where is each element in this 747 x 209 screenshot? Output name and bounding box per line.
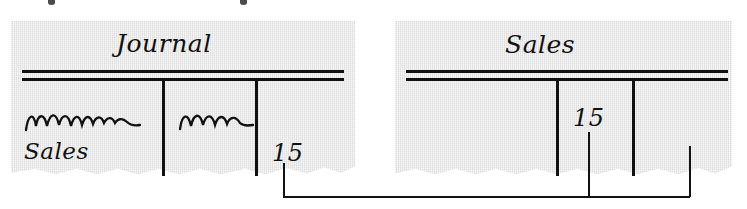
posting-trace-lead-ledger [588,132,590,197]
journal-heading: Journal [116,29,212,58]
ledger-credit-amount: 15 [573,104,605,132]
posting-trace-horizontal [283,196,690,198]
ledger-heading: Sales [505,30,575,59]
journal-squiggle-line-1 [24,108,144,134]
journal-column-rule-1 [162,81,165,176]
posting-diagram: Journal Sales 15 Sales 15 [0,0,747,209]
descender-mark [48,0,55,5]
journal-credit-amount: 15 [272,139,304,167]
descender-mark [240,0,247,5]
journal-squiggle-line-2 [178,109,256,133]
ledger-double-rule [406,70,728,81]
posting-trace-lead-journal [283,163,285,197]
journal-account-credited: Sales [24,138,89,164]
ledger-column-rule-2 [632,81,635,176]
ledger-column-rule-1 [556,81,559,176]
posting-trace-right-riser [689,146,691,197]
journal-double-rule [22,70,344,81]
